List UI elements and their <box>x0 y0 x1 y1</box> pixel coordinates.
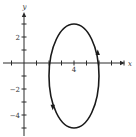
tick-labels: xy42−2−4 <box>10 3 132 120</box>
x-axis-label: x <box>128 60 132 68</box>
chart: xy42−2−4 <box>0 0 136 137</box>
x-tick-label: 4 <box>72 66 77 74</box>
axes <box>3 12 125 136</box>
curves <box>49 24 100 128</box>
y-tick-label: −4 <box>10 112 21 120</box>
ellipse-curve <box>49 24 99 128</box>
y-tick-label: −2 <box>10 86 20 94</box>
y-axis-label: y <box>22 3 28 11</box>
y-axis-arrow-icon <box>22 12 26 17</box>
y-tick-label: 2 <box>16 34 20 42</box>
